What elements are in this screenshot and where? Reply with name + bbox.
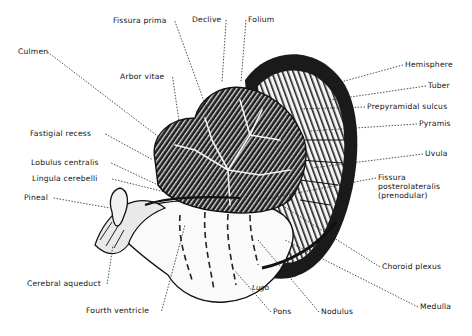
leader-folium: [241, 20, 246, 82]
leader-fastigial-recess: [106, 134, 153, 160]
label-arbor-vitae: Arbor vitae: [120, 72, 164, 81]
label-uvula: Uvula: [425, 149, 448, 158]
label-pineal: Pineal: [24, 193, 48, 202]
leader-hemisphere: [330, 65, 403, 85]
leader-medulla: [285, 240, 418, 307]
label-declive: Declive: [192, 15, 221, 24]
label-pons: Pons: [273, 307, 292, 316]
label-lobulus-centralis: Lobulus centralis: [31, 158, 99, 167]
leader-culmen: [48, 52, 160, 138]
leader-declive: [222, 20, 226, 82]
label-cerebral-aqueduct: Cerebral aqueduct: [27, 279, 101, 288]
label-fissura-posterolateralis: Fissura posterolateralis (prenodular): [378, 173, 440, 200]
label-hemisphere: Hemisphere: [405, 60, 453, 69]
label-pyramis: Pyramis: [419, 119, 451, 128]
label-fourth-ventricle: Fourth ventricle: [86, 306, 149, 315]
arbor-vitae-shape: [145, 87, 306, 213]
label-lingula-cerebelli: Lingula cerebelli: [32, 174, 98, 183]
label-folium: Folium: [248, 15, 274, 24]
label-nodulus: Nodulus: [321, 307, 353, 316]
label-medulla: Medulla: [420, 302, 451, 311]
artist-signature: Lugo: [252, 284, 269, 292]
label-fastigial-recess: Fastigial recess: [30, 129, 91, 138]
label-culmen: Culmen: [18, 47, 48, 56]
leader-lobulus-centralis: [111, 163, 158, 185]
label-choroid-plexus: Choroid plexus: [382, 262, 441, 271]
leader-fissura-prima: [175, 21, 208, 112]
label-fissura-prima: Fissura prima: [113, 16, 167, 25]
label-prepyramidal-sulcus: Prepyramidal sulcus: [367, 102, 447, 111]
label-tuber: Tuber: [428, 81, 450, 90]
leader-pineal: [54, 198, 110, 208]
